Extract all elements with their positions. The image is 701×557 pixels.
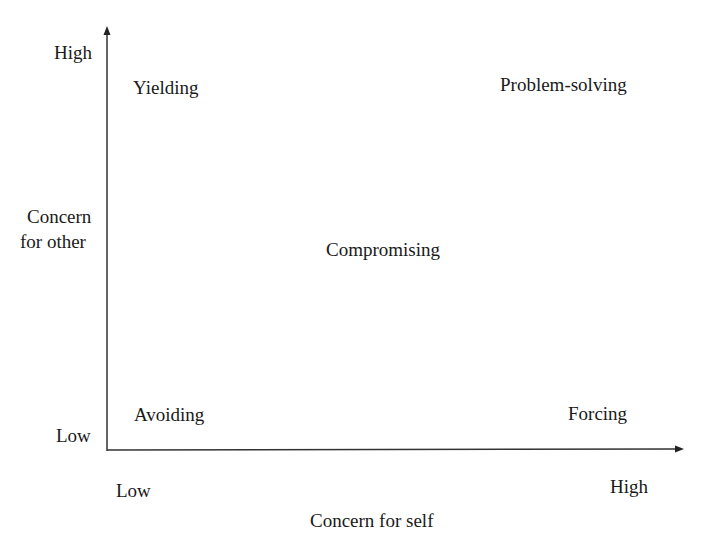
style-problem-solving: Problem-solving xyxy=(500,74,627,96)
style-forcing: Forcing xyxy=(568,403,627,425)
y-axis-title-line1: Concern xyxy=(27,206,91,228)
x-axis-low-label: Low xyxy=(116,480,151,502)
x-axis-high-label: High xyxy=(610,476,648,498)
style-yielding: Yielding xyxy=(133,77,198,99)
x-axis-line xyxy=(107,449,676,450)
style-avoiding: Avoiding xyxy=(134,404,204,426)
y-axis-arrow-icon xyxy=(104,26,111,35)
style-compromising: Compromising xyxy=(326,239,440,261)
y-axis-title-line2: for other xyxy=(20,231,86,253)
x-axis-title: Concern for self xyxy=(310,510,433,532)
x-axis-arrow-icon xyxy=(675,446,684,453)
y-axis-low-label: Low xyxy=(56,425,91,447)
y-axis-high-label: High xyxy=(54,42,92,64)
